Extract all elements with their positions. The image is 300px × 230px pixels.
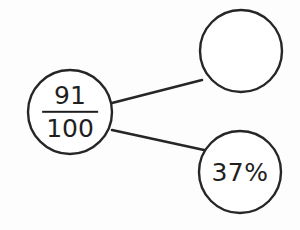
- node-circle-blank-answer[interactable]: [200, 10, 282, 92]
- connector-root-to-blank: [112, 80, 202, 103]
- connector-root-to-percent: [112, 130, 204, 150]
- diagram-graphics: [0, 0, 300, 230]
- node-circle-percent[interactable]: [199, 131, 281, 213]
- diagram-canvas: 91 100 37%: [0, 0, 300, 230]
- node-circle-root-fraction[interactable]: [28, 70, 112, 154]
